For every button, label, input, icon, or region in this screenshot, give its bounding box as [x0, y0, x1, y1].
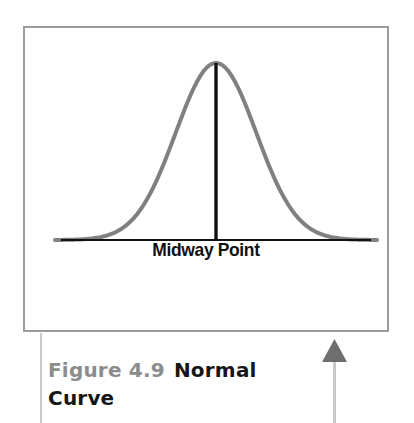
arrow-head-up-icon — [322, 339, 347, 362]
figure-panel: Midway Point — [23, 26, 389, 332]
callout-arrow-up-icon — [320, 335, 350, 423]
left-connector-line — [40, 333, 42, 423]
arrow-shaft — [333, 359, 336, 423]
figure-caption: Figure 4.9Normal Curve — [48, 356, 308, 413]
midway-point-label: Midway Point — [39, 240, 372, 259]
normal-curve-plot — [25, 28, 387, 330]
figure-caption-number: Figure 4.9 — [48, 358, 165, 382]
